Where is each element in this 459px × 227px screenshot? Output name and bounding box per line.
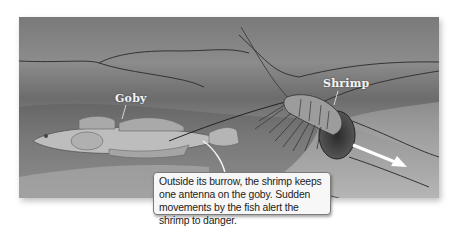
illustration-panel: Goby Shrimp	[19, 17, 439, 198]
seabed-illustration	[19, 17, 439, 198]
caption-box: Outside its burrow, the shrimp keeps one…	[153, 172, 331, 215]
shrimp-leader-line	[334, 91, 338, 105]
shrimp-label: Shrimp	[323, 77, 369, 90]
goby-label: Goby	[115, 92, 147, 105]
